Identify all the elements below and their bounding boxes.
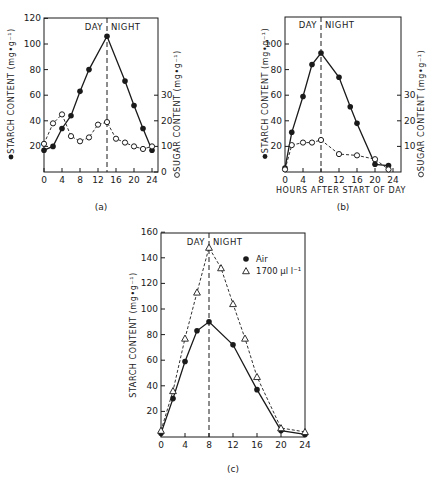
filled-circle-marker [206,319,212,325]
x-tick-label: 4 [300,175,306,185]
open-circle-marker [140,146,145,151]
filled-circle-marker [372,162,378,168]
y-tick-label: 100 [24,39,41,49]
filled-circle-marker [77,89,83,95]
filled-circle-marker [254,387,260,393]
open-circle-marker [59,112,64,117]
svg-text:STARCH CONTENT (mg•g⁻¹): STARCH CONTENT (mg•g⁻¹) [129,272,138,397]
filled-circle-marker [289,130,295,136]
y-tick-label: 160 [141,227,158,237]
y-right-tick-label: 30 [404,90,416,100]
x-tick-label: 16 [110,175,122,185]
open-circle-marker [77,139,82,144]
x-tick-label: 0 [282,175,288,185]
open-circle-marker [336,151,341,156]
series-line [285,53,389,168]
filled-circle-marker [140,126,146,132]
open-circle-marker [282,167,287,172]
night-label: NIGHT [111,22,141,32]
x-tick-label: 24 [146,175,158,185]
open-triangle-marker [254,373,261,379]
x-tick-label: 0 [158,440,164,450]
y-tick-label: 120 [141,278,158,288]
filled-circle-marker [59,126,65,132]
y-tick-label: 120 [24,13,41,23]
y-tick-label: 60 [30,90,42,100]
open-triangle-marker [243,268,250,274]
chart-a: 04812162024204060801001200102030DAYNIGHT… [7,13,182,212]
open-triangle-marker [182,335,189,341]
y-tick-label: 20 [147,406,159,416]
open-circle-marker [113,136,118,141]
open-triangle-marker [230,300,237,306]
svg-text:SUGAR CONTENT (mg•g⁻¹): SUGAR CONTENT (mg•g⁻¹) [173,50,182,171]
open-circle-marker [131,144,136,149]
x-tick-label: 12 [333,175,344,185]
x-tick-label: 24 [299,440,311,450]
y-tick-label: 60 [271,90,283,100]
day-label: DAY [85,22,104,32]
x-tick-label: 8 [318,175,324,185]
y-tick-label: 20 [271,141,283,151]
filled-circle-marker [243,256,249,262]
x-tick-label: 0 [41,175,47,185]
panel-label: (a) [95,202,108,212]
open-circle-marker [309,140,314,145]
y-tick-label: 60 [147,355,159,365]
filled-circle-marker [194,328,200,334]
svg-text:SUGAR CONTENT (mg•g⁻¹): SUGAR CONTENT (mg•g⁻¹) [417,50,426,171]
night-label: NIGHT [325,20,355,30]
x-tick-label: 16 [351,175,363,185]
filled-circle-marker [131,103,137,109]
y-axis-label: STARCH CONTENT (mg•g⁻¹) [261,28,270,159]
x-tick-label: 4 [182,440,188,450]
open-circle-marker [372,157,377,162]
day-label: DAY [299,20,318,30]
chart-c: 0481216202420406080100120140160DAYNIGHTS… [129,227,311,474]
figure: 04812162024204060801001200102030DAYNIGHT… [0,0,440,487]
day-label: DAY [187,237,206,247]
open-triangle-marker [206,244,213,250]
open-circle-marker [104,119,109,124]
plot-frame [161,233,305,437]
x-tick-label: 20 [275,440,287,450]
night-label: NIGHT [213,237,243,247]
y-right-axis-label: SUGAR CONTENT (mg•g⁻¹) [417,50,426,177]
open-circle-marker [354,153,359,158]
y-tick-label: 20 [30,141,42,151]
y-right-tick-label: 0 [161,167,167,177]
x-tick-label: 12 [227,440,238,450]
x-tick-label: 20 [128,175,140,185]
x-tick-label: 12 [92,175,103,185]
filled-circle-marker [104,34,110,40]
open-circle-marker [149,144,154,149]
y-tick-label: 40 [30,116,42,126]
filled-circle-marker [354,121,360,127]
open-circle-marker [318,137,323,142]
y-right-tick-label: 20 [404,116,416,126]
x-axis-label: HOURS AFTER START OF DAY [276,186,406,195]
filled-circle-marker [300,94,306,100]
y-tick-label: 80 [147,330,159,340]
svg-text:STARCH CONTENT (mg•g⁻¹): STARCH CONTENT (mg•g⁻¹) [261,28,270,153]
filled-circle-marker [41,147,47,153]
open-triangle-marker [242,335,249,341]
x-tick-label: 8 [77,175,83,185]
open-circle-marker [289,143,294,148]
panel-label: (b) [337,202,350,212]
y-tick-label: 80 [271,65,283,75]
x-tick-label: 20 [369,175,381,185]
open-circle-marker [86,135,91,140]
filled-circle-marker [230,342,236,348]
y-tick-label: 140 [141,253,158,263]
x-tick-label: 4 [59,175,65,185]
open-circle-marker [68,134,73,139]
filled-circle-marker [336,74,342,80]
legend: Air1700 µl l⁻¹ [243,254,301,276]
open-circle-marker [300,140,305,145]
y-right-tick-label: 10 [404,141,416,151]
open-circle-marker [41,141,46,146]
open-triangle-marker [218,265,225,271]
open-circle-marker [50,121,55,126]
y-tick-label: 100 [141,304,158,314]
